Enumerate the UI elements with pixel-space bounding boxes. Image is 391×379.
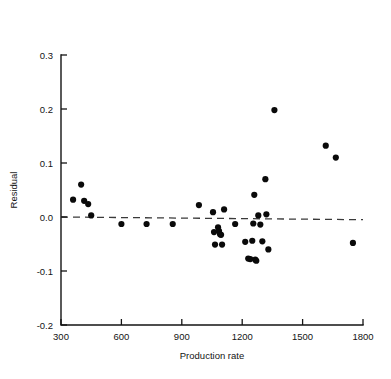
data-point <box>218 232 224 238</box>
data-point <box>85 201 91 207</box>
data-point <box>232 221 238 227</box>
ytick-label--0.2: -0.2 <box>37 320 53 331</box>
data-point <box>118 221 124 227</box>
data-point <box>323 143 329 149</box>
tick-labels-group: 300600900120015001800-0.2-0.10.00.10.20.… <box>37 50 374 343</box>
data-point <box>143 221 149 227</box>
zero-residual-line <box>61 217 363 220</box>
x-axis-title: Production rate <box>180 350 244 361</box>
ytick-label-0.0: 0.0 <box>40 212 53 223</box>
y-axis-title: Residual <box>8 172 19 209</box>
xtick-label-600: 600 <box>113 331 129 342</box>
xtick-label-1800: 1800 <box>352 331 373 342</box>
data-point <box>242 239 248 245</box>
data-point <box>196 202 202 208</box>
data-point <box>210 209 216 215</box>
data-point <box>262 176 268 182</box>
data-point <box>88 212 94 218</box>
data-point <box>221 206 227 212</box>
data-point <box>350 240 356 246</box>
data-point <box>259 238 265 244</box>
axes-group <box>61 55 363 325</box>
data-point <box>257 221 263 227</box>
data-point <box>263 211 269 217</box>
zero-reference-line <box>61 217 363 220</box>
xtick-label-1200: 1200 <box>232 331 253 342</box>
data-point <box>78 182 84 188</box>
data-point <box>250 220 256 226</box>
ytick-label--0.1: -0.1 <box>37 266 53 277</box>
data-point <box>333 155 339 161</box>
data-point <box>271 107 277 113</box>
data-point <box>251 192 257 198</box>
xtick-label-300: 300 <box>53 331 69 342</box>
ytick-label-0.2: 0.2 <box>40 104 53 115</box>
data-point <box>249 238 255 244</box>
data-point <box>170 221 176 227</box>
ytick-label-0.1: 0.1 <box>40 158 53 169</box>
scatter-plot-figure: 300600900120015001800-0.2-0.10.00.10.20.… <box>0 0 391 379</box>
data-point <box>265 246 271 252</box>
data-point <box>212 241 218 247</box>
data-points-group <box>70 107 356 264</box>
data-point <box>70 197 76 203</box>
tick-marks-group <box>61 55 363 325</box>
ytick-label-0.3: 0.3 <box>40 50 53 61</box>
data-point <box>219 241 225 247</box>
residual-scatter-chart: 300600900120015001800-0.2-0.10.00.10.20.… <box>0 0 391 379</box>
data-point <box>253 258 259 264</box>
data-point <box>255 212 261 218</box>
xtick-label-900: 900 <box>174 331 190 342</box>
axis-spines <box>61 55 363 325</box>
xtick-label-1500: 1500 <box>292 331 313 342</box>
